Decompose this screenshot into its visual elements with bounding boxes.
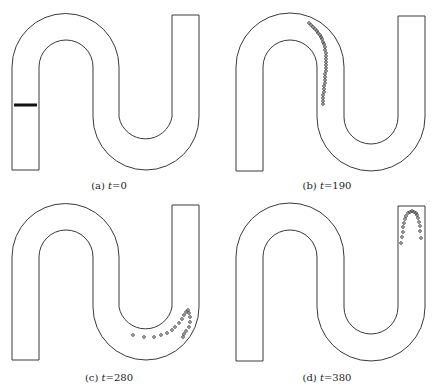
- particle: [324, 76, 327, 79]
- particle: [182, 336, 185, 339]
- particle: [178, 322, 181, 325]
- channel-outline: [12, 204, 199, 360]
- particle: [185, 330, 188, 333]
- particle: [324, 82, 327, 85]
- particle: [323, 88, 326, 91]
- particle: [322, 94, 325, 97]
- caption-a: (a) t=0: [0, 180, 218, 191]
- channel-outline: [236, 203, 425, 361]
- particle: [402, 231, 405, 234]
- particle: [323, 91, 326, 94]
- particle: [181, 318, 184, 321]
- particle: [403, 222, 406, 225]
- channel-diagram-b: [218, 0, 435, 195]
- particle: [418, 221, 421, 224]
- particle: [321, 38, 324, 41]
- particle: [324, 46, 327, 49]
- particle: [143, 336, 146, 339]
- particle: [183, 314, 186, 317]
- panel-c: (c) t=280: [0, 195, 218, 390]
- particle: [419, 230, 422, 233]
- particle: [322, 100, 325, 103]
- particle: [400, 242, 403, 245]
- channel-diagram-c: [0, 195, 218, 390]
- caption-c: (c) t=280: [0, 372, 218, 383]
- particle: [322, 103, 325, 106]
- particle: [405, 215, 408, 218]
- particle: [174, 326, 177, 329]
- particle: [324, 73, 327, 76]
- particle: [404, 218, 407, 221]
- particle: [402, 226, 405, 229]
- particle: [325, 70, 328, 73]
- particle: [322, 97, 325, 100]
- particle: [324, 79, 327, 82]
- particle: [189, 321, 192, 324]
- particle: [416, 214, 419, 217]
- particle: [420, 237, 423, 240]
- caption-b: (b) t=190: [218, 180, 435, 191]
- particle: [324, 49, 327, 52]
- particle: [325, 64, 328, 67]
- particle: [187, 309, 190, 312]
- particle: [188, 312, 191, 315]
- particle: [325, 52, 328, 55]
- particle: [325, 55, 328, 58]
- particle: [132, 334, 135, 337]
- particle: [325, 61, 328, 64]
- particle: [323, 85, 326, 88]
- particle: [183, 333, 186, 336]
- channel-outline: [236, 13, 425, 171]
- channel-diagram-a: [0, 0, 218, 195]
- particle: [323, 43, 326, 46]
- channel-outline: [12, 14, 199, 170]
- particle: [160, 334, 163, 337]
- particle: [325, 58, 328, 61]
- channel-diagram-d: [218, 195, 435, 390]
- particle: [401, 236, 404, 239]
- particles: [400, 210, 423, 245]
- panel-d: (d) t=380: [218, 195, 435, 390]
- particle: [417, 217, 420, 220]
- particle: [188, 326, 191, 329]
- caption-d: (d) t=380: [218, 372, 435, 383]
- particle: [189, 316, 192, 319]
- panel-b: (b) t=190: [218, 0, 435, 195]
- panel-a: (a) t=0: [0, 0, 218, 195]
- particle: [325, 67, 328, 70]
- particle: [153, 336, 156, 339]
- particle: [419, 225, 422, 228]
- particle: [171, 329, 174, 332]
- particle: [166, 332, 169, 335]
